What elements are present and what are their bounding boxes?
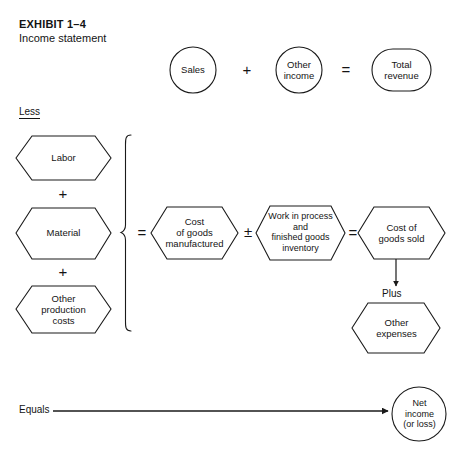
node-label-other-income: Other income — [274, 59, 324, 81]
grouping-brace — [121, 135, 131, 331]
exhibit-title: EXHIBIT 1–4 — [19, 18, 86, 30]
node-label-cost-of-goods-manufactured: Cost of goods manufactured — [152, 216, 237, 249]
operator-plus-material-other: + — [54, 264, 72, 279]
operator-plus-top: + — [238, 62, 256, 77]
label-equals: Equals — [19, 404, 50, 415]
node-label-net-income: Net income (or loss) — [392, 398, 447, 430]
operator-equals-top: = — [337, 62, 355, 77]
label-plus: Plus — [382, 288, 401, 299]
node-label-sales: Sales — [168, 64, 218, 75]
node-label-total-revenue: Total revenue — [372, 59, 431, 81]
operator-plus-labor-material: + — [54, 186, 72, 201]
node-label-work-in-process: Work in process and finished goods inven… — [256, 211, 345, 253]
exhibit-diagram-page: EXHIBIT 1–4 Income statement Less Equals… — [0, 0, 461, 449]
node-label-other-production-costs: Other production costs — [26, 293, 101, 326]
exhibit-subtitle: Income statement — [19, 32, 106, 44]
node-label-other-expenses: Other expenses — [354, 317, 439, 339]
operator-equals-brace: = — [133, 225, 151, 240]
label-less: Less — [19, 106, 40, 119]
node-label-cost-of-goods-sold: Cost of goods sold — [359, 222, 444, 244]
node-label-labor: Labor — [26, 152, 101, 163]
operator-plus-minus-wip: ± — [239, 224, 257, 239]
node-label-material: Material — [26, 227, 101, 238]
